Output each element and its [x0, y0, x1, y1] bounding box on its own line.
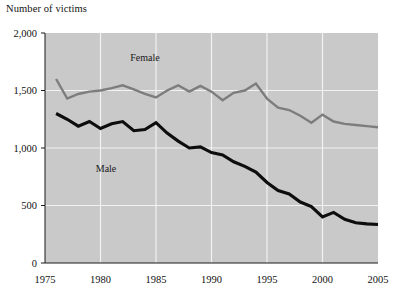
y-tick-labels: 05001,0001,5002,000 — [13, 28, 37, 269]
chart-figure: Number of victims 05001,0001,5002,000 19… — [0, 0, 396, 307]
line-chart: 05001,0001,5002,000 19751980198519901995… — [0, 0, 396, 307]
y-tick-label: 1,500 — [13, 85, 37, 96]
series-label-male: Male — [96, 163, 117, 174]
y-tick-label: 0 — [32, 258, 37, 269]
x-tick-label: 2000 — [312, 274, 333, 285]
x-tick-label: 2005 — [368, 274, 389, 285]
x-tick-label: 1995 — [257, 274, 278, 285]
x-tick-label: 1980 — [90, 274, 111, 285]
x-tick-labels: 1975198019851990199520002005 — [35, 274, 389, 285]
x-tick-label: 1985 — [146, 274, 167, 285]
y-tick-label: 1,000 — [13, 143, 37, 154]
series-label-female: Female — [130, 52, 160, 63]
y-tick-label: 2,000 — [13, 28, 37, 39]
y-tick-label: 500 — [21, 200, 37, 211]
x-tick-label: 1990 — [201, 274, 222, 285]
x-tick-label: 1975 — [35, 274, 56, 285]
